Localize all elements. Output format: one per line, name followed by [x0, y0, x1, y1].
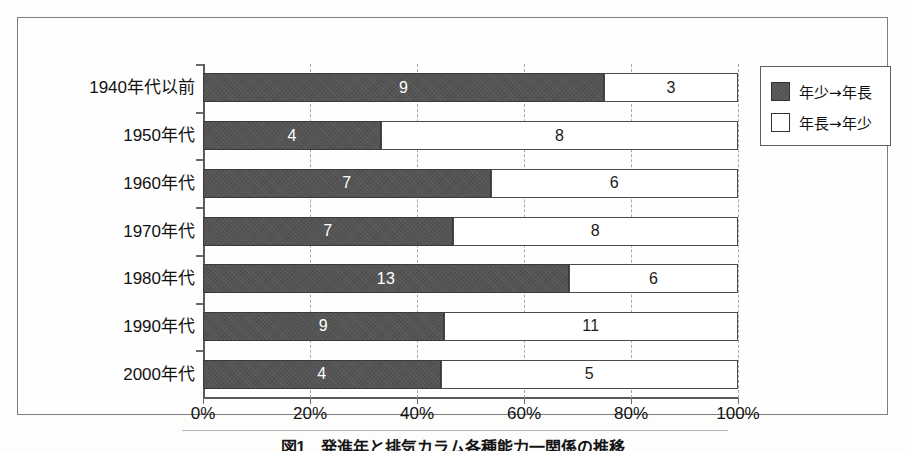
- bar-segment-old-to-young: 8: [453, 217, 738, 246]
- y-tick: [196, 159, 203, 161]
- x-axis-line: [203, 397, 739, 399]
- bar-row: 93: [203, 73, 738, 102]
- bar-row: 48: [203, 121, 738, 150]
- bar-row: 911: [203, 312, 738, 341]
- bar-segment-old-to-young: 5: [441, 360, 738, 389]
- legend-label: 年長→年少: [799, 112, 872, 133]
- x-axis-labels: 0%20%40%60%80%100%: [203, 404, 739, 428]
- bar-segment-old-to-young: 11: [444, 312, 738, 341]
- y-tick: [196, 64, 203, 66]
- y-tick: [196, 303, 203, 305]
- bar-segment-old-to-young: 3: [604, 73, 738, 102]
- bar-row: 78: [203, 217, 738, 246]
- figure-page: 1940年代以前1950年代1960年代1970年代1980年代1990年代20…: [0, 0, 906, 451]
- legend-label: 年少→年長: [799, 81, 872, 102]
- x-axis-label: 60%: [484, 404, 564, 424]
- caption-rule: [182, 430, 728, 431]
- bar-row: 136: [203, 264, 738, 293]
- x-axis-label: 80%: [591, 404, 671, 424]
- bar-row: 76: [203, 169, 738, 198]
- category-label-1950年代: 1950年代: [35, 121, 195, 150]
- legend-swatch-light: [771, 113, 790, 132]
- legend-item: 年長→年少: [771, 107, 890, 138]
- category-label-1990年代: 1990年代: [35, 312, 195, 341]
- bar-segment-old-to-young: 6: [491, 169, 738, 198]
- category-axis: 1940年代以前1950年代1960年代1970年代1980年代1990年代20…: [29, 64, 195, 398]
- bar-segment-young-to-old: 13: [203, 264, 569, 293]
- y-tick: [196, 255, 203, 257]
- category-label-1970年代: 1970年代: [35, 217, 195, 246]
- bar-segment-old-to-young: 8: [381, 121, 738, 150]
- legend-swatch-dark: [771, 82, 790, 101]
- figure-caption: 図1 発進年と排気カラム各種能力一関係の推移: [0, 434, 906, 451]
- x-axis-label: 0%: [163, 404, 243, 424]
- x-axis-label: 20%: [270, 404, 350, 424]
- plot-area: 9348767813691145: [203, 64, 738, 398]
- bar-segment-young-to-old: 9: [203, 312, 444, 341]
- bar-segment-young-to-old: 4: [203, 121, 381, 150]
- category-label-1960年代: 1960年代: [35, 169, 195, 198]
- legend: 年少→年長年長→年少: [760, 66, 891, 146]
- bar-segment-old-to-young: 6: [569, 264, 738, 293]
- x-axis-label: 100%: [698, 404, 778, 424]
- bar-segment-young-to-old: 9: [203, 73, 604, 102]
- category-label-1980年代: 1980年代: [35, 264, 195, 293]
- y-tick: [196, 350, 203, 352]
- x-axis-label: 40%: [377, 404, 457, 424]
- y-tick: [196, 112, 203, 114]
- legend-item: 年少→年長: [771, 76, 890, 107]
- figure-frame: 1940年代以前1950年代1960年代1970年代1980年代1990年代20…: [17, 17, 888, 415]
- bar-segment-young-to-old: 7: [203, 217, 453, 246]
- bar-row: 45: [203, 360, 738, 389]
- category-label-2000年代: 2000年代: [35, 360, 195, 389]
- category-label-1940年代以前: 1940年代以前: [35, 73, 195, 102]
- bar-segment-young-to-old: 7: [203, 169, 491, 198]
- gridline-100%: [738, 64, 739, 398]
- bar-segment-young-to-old: 4: [203, 360, 441, 389]
- y-tick: [196, 207, 203, 209]
